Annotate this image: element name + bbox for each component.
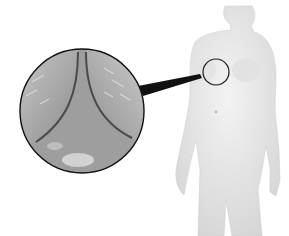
figure-silhouette bbox=[176, 6, 280, 236]
figure-shade bbox=[232, 58, 260, 82]
figure-detail bbox=[215, 111, 218, 114]
magnified-inset bbox=[15, 48, 150, 178]
anatomical-illustration bbox=[0, 0, 289, 236]
